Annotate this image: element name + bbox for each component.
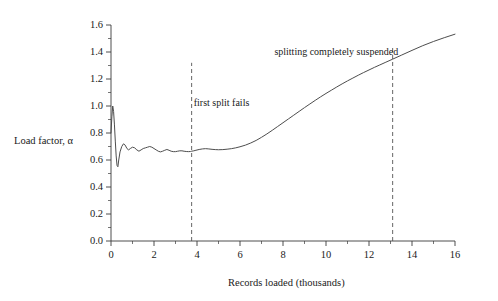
- y-tick-label: 0.6: [69, 155, 103, 166]
- chart-container: Load factor, α Records loaded (thousands…: [0, 0, 498, 301]
- x-tick-label: 10: [311, 250, 341, 261]
- x-tick-label: 6: [225, 250, 255, 261]
- y-tick-label: 0.8: [69, 128, 103, 139]
- axes-group: [106, 25, 455, 246]
- y-tick-label: 1.4: [69, 47, 103, 58]
- x-tick-label: 2: [139, 250, 169, 261]
- x-tick-label: 16: [440, 250, 470, 261]
- y-axis-title: Load factor, α: [14, 136, 73, 147]
- annotation-splitting-completely-suspended: splitting completely suspended: [274, 47, 398, 57]
- x-tick-label: 12: [354, 250, 384, 261]
- x-tick-label: 4: [182, 250, 212, 261]
- x-tick-label: 8: [268, 250, 298, 261]
- y-tick-label: 1.6: [69, 20, 103, 31]
- annotation-first-split-fails: first split fails: [194, 98, 250, 108]
- y-tick-label: 0.2: [69, 209, 103, 220]
- annotation-vlines: [192, 45, 393, 241]
- y-tick-label: 0.4: [69, 182, 103, 193]
- y-tick-label: 0.0: [69, 236, 103, 247]
- x-axis-title: Records loaded (thousands): [228, 278, 345, 289]
- x-tick-label: 0: [96, 250, 126, 261]
- x-tick-label: 14: [397, 250, 427, 261]
- y-tick-label: 1.2: [69, 74, 103, 85]
- y-tick-label: 1.0: [69, 101, 103, 112]
